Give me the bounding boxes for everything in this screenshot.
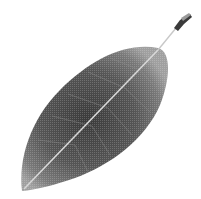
leaf-stem <box>158 28 176 50</box>
leaf-graphic <box>0 0 201 199</box>
leaf-image <box>0 0 201 199</box>
leaf-stem-end <box>174 14 192 31</box>
